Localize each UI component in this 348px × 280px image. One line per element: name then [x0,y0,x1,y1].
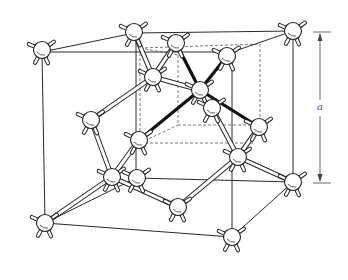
atom-f-bottom [165,199,190,221]
atom-sphere [251,119,268,136]
atom-sphere [192,82,209,99]
atom-sphere [285,23,302,40]
atom-sphere [170,199,187,216]
atom-sphere [83,112,100,129]
atom-sphere [145,69,162,86]
atom-f-left [78,112,103,134]
atom-i-upper-left [140,69,165,91]
atom-sphere [219,48,236,65]
atom-sphere [129,170,146,187]
atom-sphere [285,174,302,191]
lattice-constant-label: a [317,101,323,112]
atom-i-low-left [99,169,124,191]
atom-sphere [104,169,121,186]
atom-sphere [224,229,241,246]
atom-sphere [126,24,143,41]
atom-c-fbr [219,229,244,251]
diamond-lattice-figure [0,0,348,280]
atom-sphere [34,42,51,59]
atom-c-btl [121,24,146,46]
atom-sphere [37,215,54,232]
atom-sphere [230,149,247,166]
atom-c-fbl [32,215,57,237]
atom-sphere [131,132,148,149]
atom-sphere [204,100,221,117]
atom-c-ftl [29,42,54,64]
atom-c-btr [280,23,305,45]
atom-c-bbr [280,174,305,196]
diagram-canvas: a [0,0,348,280]
atom-sphere [168,35,185,52]
